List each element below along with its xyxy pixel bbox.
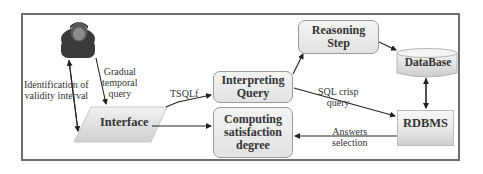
rdbms-node: RDBMS (397, 110, 454, 146)
arrow-interpreting-reasoning (293, 54, 303, 74)
database-label: DataBase (397, 56, 459, 68)
sql-crisp-query-label: SQL crisp query (318, 86, 358, 108)
computing-satisfaction-node: Computing satisfaction degree (213, 107, 293, 158)
answers-selection-label: Answers selection (332, 126, 368, 148)
interface-label: Interface (100, 115, 149, 130)
interpreting-query-node: Interpreting Query (213, 71, 293, 103)
identification-label: Identification of validity interval (24, 79, 89, 101)
user-icon (61, 22, 95, 58)
reasoning-step-node: Reasoning Step (298, 20, 379, 54)
computing-line3: degree (224, 139, 282, 152)
arrow-reasoning-database (379, 42, 396, 50)
tsqlf-label: TSQLf (170, 88, 198, 99)
gradual-query-label: Gradual temporal query (102, 66, 138, 99)
reasoning-line2: Step (312, 37, 365, 50)
interpreting-query-line2: Query (221, 87, 284, 100)
rdbms-label: RDBMS (403, 116, 448, 145)
